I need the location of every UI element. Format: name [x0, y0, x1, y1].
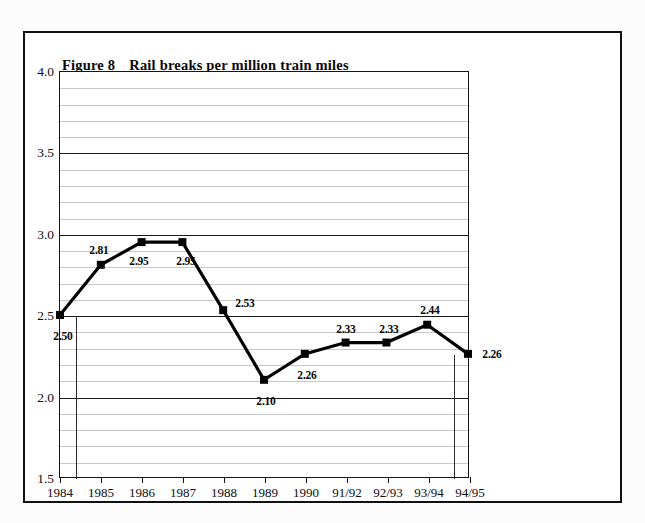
data-point-marker	[219, 306, 227, 314]
data-point-marker	[342, 339, 350, 347]
y-axis-tick-label: 4.0	[37, 64, 54, 80]
x-axis-tick	[470, 477, 471, 483]
y-axis-tick-label: 2.0	[37, 390, 54, 406]
data-point-value-label: 2.33	[379, 323, 398, 335]
data-point-value-label: 2.26	[482, 348, 501, 360]
data-point-marker	[178, 238, 186, 246]
data-point-marker	[464, 350, 472, 358]
data-point-marker	[423, 321, 431, 329]
chart-plot-area: 4.03.53.02.52.01.5 198419851986198719881…	[59, 71, 469, 478]
data-point-value-label: 2.44	[420, 304, 439, 316]
y-axis-tick-label: 3.5	[37, 145, 54, 161]
x-axis-tick-label: 93/94	[414, 485, 444, 501]
data-point-marker	[56, 311, 64, 319]
data-point-marker	[97, 261, 105, 269]
x-axis-tick-label: 92/93	[373, 485, 403, 501]
x-axis-tick	[224, 477, 225, 483]
x-axis-tick	[429, 477, 430, 483]
data-point-marker	[382, 339, 390, 347]
series-polyline	[60, 242, 468, 380]
x-axis-tick-label: 1987	[170, 485, 196, 501]
data-point-value-label: 2.10	[256, 395, 275, 407]
series-line-rail-breaks	[60, 72, 468, 477]
x-axis-tick-label: 1985	[88, 485, 114, 501]
data-point-value-label: 2.50	[53, 330, 72, 342]
x-axis-tick	[306, 477, 307, 483]
x-axis-tick-label: 1986	[129, 485, 155, 501]
x-axis-tick-label: 1990	[293, 485, 319, 501]
y-axis-tick-label: 2.5	[37, 308, 54, 324]
x-axis-tick-label: 1988	[211, 485, 237, 501]
x-axis-tick	[60, 477, 61, 483]
x-axis-tick	[101, 477, 102, 483]
x-axis-tick-label: 91/92	[332, 485, 362, 501]
scanned-page: Figure 8Rail breaks per million train mi…	[0, 0, 645, 523]
x-axis-tick-label: 1984	[47, 485, 73, 501]
data-point-marker	[301, 350, 309, 358]
figure-frame: Figure 8Rail breaks per million train mi…	[23, 31, 622, 503]
data-point-marker	[138, 238, 146, 246]
x-axis-tick	[265, 477, 266, 483]
x-axis-tick	[142, 477, 143, 483]
data-point-value-label: 2.33	[336, 323, 355, 335]
x-axis-tick-label: 94/95	[455, 485, 485, 501]
x-axis-tick-label: 1989	[252, 485, 278, 501]
data-point-value-label: 2.95	[176, 255, 195, 267]
x-axis-tick	[183, 477, 184, 483]
data-point-value-label: 2.26	[297, 369, 316, 381]
data-point-value-label: 2.95	[129, 255, 148, 267]
y-axis-tick-label: 3.0	[37, 227, 54, 243]
data-point-marker	[260, 376, 268, 384]
x-axis-tick	[347, 477, 348, 483]
x-axis-tick	[388, 477, 389, 483]
data-point-value-label: 2.53	[235, 297, 254, 309]
data-point-value-label: 2.81	[89, 244, 108, 256]
